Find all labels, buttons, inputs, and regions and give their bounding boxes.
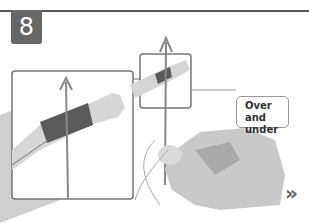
detail-inset <box>12 71 133 199</box>
callout-label: Over and under <box>236 96 289 128</box>
next-chevron-icon[interactable]: » <box>285 181 292 205</box>
instruction-panel: 8 Over and under » <box>0 0 309 223</box>
